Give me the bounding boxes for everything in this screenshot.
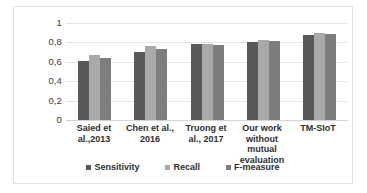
y-axis-tick: 0,4 — [28, 76, 62, 86]
bar-group — [122, 23, 178, 120]
x-axis-tick-label: Chen et al., 2016 — [122, 123, 178, 165]
y-axis-tick: 0,6 — [28, 57, 62, 67]
bar-group — [179, 23, 235, 120]
chart-legend: SensitivityRecallF-measure — [14, 163, 352, 172]
x-axis-tick-label: TM-SIoT — [290, 123, 346, 165]
legend-item: F-measure — [226, 163, 280, 172]
plot-area: 1 0,8 0,6 0,4 0,2 0 — [14, 7, 354, 137]
plot-canvas — [66, 23, 348, 120]
bar-groups — [66, 23, 348, 120]
y-axis-tick: 1 — [28, 18, 62, 28]
bar — [213, 45, 224, 120]
y-axis: 1 0,8 0,6 0,4 0,2 0 — [28, 23, 62, 120]
legend-item: Sensitivity — [86, 163, 139, 172]
bar — [78, 61, 89, 120]
bar — [303, 35, 314, 120]
y-axis-tick: 0,2 — [28, 96, 62, 106]
bar — [191, 44, 202, 120]
x-axis-tick-label: Saied et al.,2013 — [66, 123, 122, 165]
bar-chart: 1 0,8 0,6 0,4 0,2 0 Saied et al.,2013Che… — [13, 6, 353, 184]
bar-group — [292, 23, 348, 120]
bar — [145, 46, 156, 120]
legend-label: F-measure — [234, 163, 280, 172]
legend-swatch-icon — [165, 165, 170, 170]
bar — [134, 52, 145, 120]
legend-item: Recall — [165, 163, 200, 172]
bar — [325, 34, 336, 120]
x-axis-line — [66, 120, 348, 121]
x-axis-tick-label: Our work without mutual evaluation — [234, 123, 290, 165]
legend-swatch-icon — [86, 165, 91, 170]
bar-group — [235, 23, 291, 120]
legend-label: Sensitivity — [94, 163, 139, 172]
bar — [100, 58, 111, 120]
bar — [202, 44, 213, 120]
x-axis-labels: Saied et al.,2013Chen et al., 2016Truong… — [66, 123, 346, 165]
legend-label: Recall — [173, 163, 200, 172]
x-axis-tick-label: Truong et al., 2017 — [178, 123, 234, 165]
legend-swatch-icon — [226, 165, 231, 170]
bar — [314, 33, 325, 120]
bar — [247, 42, 258, 120]
bar — [269, 41, 280, 120]
bar — [156, 49, 167, 120]
y-axis-tick: 0,8 — [28, 38, 62, 48]
bar — [258, 40, 269, 120]
bar — [89, 55, 100, 120]
y-axis-tick: 0 — [28, 115, 62, 125]
bar-group — [66, 23, 122, 120]
